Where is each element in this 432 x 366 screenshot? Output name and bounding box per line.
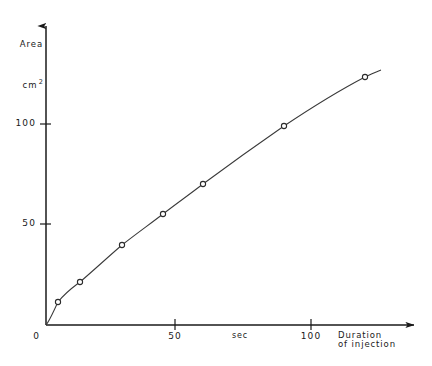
data-point: [160, 211, 165, 216]
data-point: [281, 123, 286, 128]
origin-label: 0: [33, 331, 40, 341]
y-axis-title: Area: [20, 40, 43, 49]
data-point: [55, 299, 60, 304]
y-tick-label-50: 50: [22, 218, 36, 228]
y-axis-unit-exponent: 2: [37, 78, 43, 86]
plot-canvas: [0, 0, 432, 366]
x-tick-label-50: 50: [168, 331, 182, 341]
data-point: [200, 181, 205, 186]
chart-figure: Area cm2 100 50 0 50 100 sec Durationof …: [0, 0, 432, 366]
data-curve: [46, 70, 381, 325]
y-axis-unit: cm2: [23, 79, 43, 90]
y-tick-label-100: 100: [16, 118, 36, 128]
data-point-markers: [55, 74, 367, 304]
x-axis-title: Durationof injection: [338, 331, 396, 349]
x-axis-unit: sec: [232, 332, 248, 340]
data-point: [119, 242, 124, 247]
x-axis-title-line2: of injection: [338, 339, 396, 349]
data-point: [77, 279, 82, 284]
y-axis-unit-base: cm: [23, 80, 38, 90]
data-point: [362, 74, 367, 79]
x-tick-label-100: 100: [301, 331, 321, 341]
